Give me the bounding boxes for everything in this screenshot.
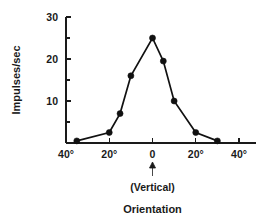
data-point-marker[interactable] — [193, 130, 199, 136]
data-point-marker[interactable] — [214, 138, 220, 144]
x-tick-label: 0 — [150, 148, 156, 160]
data-point-marker[interactable] — [106, 130, 112, 136]
data-series-line — [77, 38, 218, 141]
y-tick-label: 30 — [46, 11, 58, 23]
x-tick-label: 40° — [58, 148, 74, 160]
data-point-marker[interactable] — [74, 138, 80, 144]
data-point-marker[interactable] — [150, 35, 156, 41]
figure-container: 10203040°20°020°40°Impulses/sec(Vertical… — [0, 0, 274, 222]
x-tick-label: 40° — [231, 148, 247, 160]
y-axis-title: Impulses/sec — [10, 45, 22, 114]
vertical-annotation-label: (Vertical) — [130, 181, 174, 193]
x-tick-label: 20° — [188, 148, 204, 160]
data-point-marker[interactable] — [128, 73, 134, 79]
orientation-tuning-chart: 10203040°20°020°40°Impulses/sec(Vertical… — [0, 0, 274, 222]
x-axis-title: Orientation — [123, 203, 182, 215]
data-point-marker[interactable] — [171, 98, 177, 104]
y-tick-label: 10 — [46, 95, 58, 107]
y-tick-label: 20 — [46, 53, 58, 65]
data-point-marker[interactable] — [160, 58, 166, 64]
data-point-marker[interactable] — [117, 111, 123, 117]
vertical-arrow-head — [150, 162, 156, 168]
x-tick-label: 20° — [101, 148, 117, 160]
